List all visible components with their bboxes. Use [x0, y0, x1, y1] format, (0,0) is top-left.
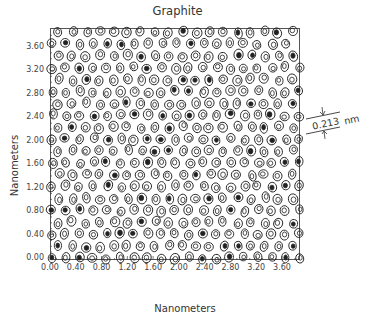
- atom-contour: [53, 146, 61, 157]
- atom-contour: [217, 121, 229, 133]
- atom-contour: [266, 205, 276, 216]
- atom-contour: [293, 227, 304, 238]
- atom-contour: [120, 26, 132, 39]
- atom-contour: [234, 27, 243, 39]
- atom-contour: [121, 240, 130, 252]
- atom-contour: [212, 62, 223, 73]
- atom-contour: [156, 61, 167, 73]
- atom-contour: [67, 169, 79, 182]
- atom-contour: [293, 179, 304, 192]
- atom-contour: [75, 134, 85, 145]
- atom-contour: [204, 26, 215, 38]
- atom-contour: [274, 120, 284, 131]
- atom-contour: [122, 73, 133, 85]
- atom-contour: [46, 181, 57, 193]
- atom-contour: [62, 88, 69, 97]
- atom-contour: [260, 122, 268, 133]
- atom-contour: [245, 240, 255, 251]
- atom-contour: [144, 88, 154, 98]
- atom-contour: [287, 99, 297, 109]
- atom-contour: [114, 226, 126, 239]
- atom-contour: [178, 120, 188, 131]
- atom-contour: [178, 217, 190, 229]
- atom-contour: [89, 38, 97, 48]
- y-tick-label: 3.60: [4, 42, 44, 51]
- atom-contour: [129, 61, 139, 71]
- atom-contour: [203, 123, 214, 134]
- atom-contour: [95, 49, 106, 61]
- atom-contour: [246, 194, 257, 206]
- atom-contour: [191, 146, 201, 157]
- atom-contour: [66, 98, 76, 109]
- atom-contour: [204, 145, 214, 155]
- atom-contour: [218, 74, 229, 85]
- atom-contour: [135, 26, 145, 37]
- atom-contour: [136, 51, 146, 62]
- y-tick-label: 2.80: [4, 89, 44, 98]
- atom-contour: [61, 206, 71, 216]
- atom-contour: [274, 50, 284, 61]
- atom-contour: [238, 38, 249, 48]
- atom-contour: [103, 228, 111, 238]
- atom-contour: [143, 37, 153, 48]
- atom-contour: [203, 193, 214, 205]
- atom-contour: [289, 219, 298, 229]
- atom-contour: [156, 206, 166, 218]
- atom-contour: [90, 156, 99, 166]
- x-axis-label: Nanometers: [125, 303, 245, 314]
- atom-contour: [295, 204, 304, 214]
- atom-contour: [48, 254, 56, 263]
- atom-contour: [53, 27, 63, 38]
- atom-contour: [233, 49, 243, 61]
- atom-contour: [164, 218, 173, 229]
- atom-contour: [204, 216, 213, 226]
- atom-contour: [247, 49, 257, 60]
- atom-contour: [178, 25, 189, 37]
- atom-contour: [88, 205, 98, 216]
- atom-contour: [217, 192, 227, 204]
- atom-contour: [185, 110, 195, 121]
- atom-contour: [134, 169, 146, 181]
- atom-contour: [80, 51, 91, 63]
- atom-contour: [62, 252, 71, 263]
- atom-contour: [130, 158, 140, 169]
- atom-contour: [178, 145, 188, 157]
- atom-contour: [87, 253, 97, 262]
- atom-contour: [267, 181, 278, 193]
- atom-contour: [169, 228, 179, 239]
- atom-contour: [183, 204, 194, 216]
- atom-contour: [164, 145, 173, 155]
- atom-contour: [286, 73, 298, 86]
- atom-contour: [246, 98, 256, 108]
- atom-contour: [199, 157, 207, 167]
- atom-contour: [232, 75, 242, 87]
- atom-contour: [246, 27, 255, 38]
- atom-contour: [293, 85, 303, 96]
- atom-contour: [128, 229, 137, 238]
- atom-contour: [116, 63, 125, 74]
- atom-contour: [109, 99, 119, 109]
- atom-contour: [279, 205, 289, 216]
- atom-contour: [137, 124, 146, 134]
- atom-contour: [94, 75, 104, 87]
- atom-contour: [259, 240, 269, 252]
- atom-contour: [206, 168, 217, 179]
- atom-contour: [182, 62, 193, 74]
- atom-contour: [59, 228, 69, 240]
- atom-contour: [74, 111, 85, 121]
- atom-contour: [219, 240, 229, 252]
- atom-contour: [162, 75, 172, 86]
- atom-contour: [226, 156, 237, 168]
- atom-contour: [198, 229, 208, 239]
- atom-contour: [170, 157, 181, 169]
- atom-contour: [219, 98, 229, 110]
- atom-contour: [212, 204, 222, 216]
- atom-contour: [211, 229, 221, 239]
- atom-contour: [271, 27, 283, 40]
- atom-contour: [150, 50, 161, 62]
- atom-contour: [280, 112, 290, 122]
- atom-contour: [47, 230, 57, 241]
- atom-contour: [204, 242, 213, 251]
- atom-contour: [254, 134, 264, 146]
- atom-contour: [280, 230, 290, 241]
